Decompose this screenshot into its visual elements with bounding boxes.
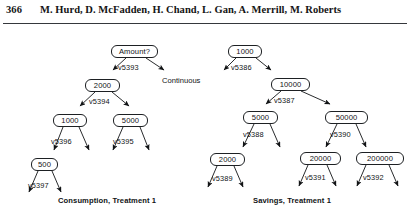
edge-label-v5391: v5391: [305, 173, 326, 182]
node-consumption-2000[interactable]: 2000: [85, 79, 120, 92]
figure-area: Amount? 2000 1000 5000 500 v5393 v5394 v…: [0, 26, 411, 214]
author-list: M. Hurd, D. McFadden, H. Chand, L. Gan, …: [40, 4, 405, 15]
edge-label-v5395: v5395: [113, 137, 134, 146]
node-amount-question[interactable]: Amount?: [111, 45, 158, 58]
edge-label-v5389: v5389: [212, 174, 233, 183]
consumption-caption: Consumption, Treatment 1: [58, 196, 156, 205]
node-savings-1000[interactable]: 1000: [228, 45, 262, 58]
edge-label-v5396: v5396: [51, 137, 72, 146]
edge-label-v5386: v5386: [231, 63, 252, 72]
node-savings-20000[interactable]: 20000: [300, 152, 341, 165]
node-savings-50000[interactable]: 50000: [325, 111, 368, 124]
node-consumption-5000[interactable]: 5000: [113, 114, 148, 127]
edge-label-v5390: v5390: [330, 130, 351, 139]
page-canvas: 366 M. Hurd, D. McFadden, H. Chand, L. G…: [0, 0, 411, 214]
edge-label-v5392: v5392: [363, 173, 384, 182]
edge-label-v5387: v5387: [274, 96, 295, 105]
node-savings-200000[interactable]: 200000: [356, 152, 404, 165]
node-savings-5000[interactable]: 5000: [243, 111, 278, 124]
edge-label-v5394: v5394: [89, 97, 110, 106]
node-savings-2000[interactable]: 2000: [210, 153, 245, 166]
edge-label-v5397: v5397: [28, 181, 49, 190]
running-head: 366 M. Hurd, D. McFadden, H. Chand, L. G…: [0, 0, 411, 24]
header-divider: [3, 23, 407, 24]
node-consumption-500[interactable]: 500: [31, 158, 58, 171]
savings-caption: Savings, Treatment 1: [253, 196, 331, 205]
edge-label-v5393: v5393: [118, 63, 139, 72]
terminal-continuous: Continuous: [162, 76, 200, 85]
node-savings-10000[interactable]: 10000: [271, 78, 310, 91]
node-consumption-1000[interactable]: 1000: [53, 114, 87, 127]
page-number: 366: [6, 4, 22, 15]
edge-label-v5388: v5388: [243, 130, 264, 139]
